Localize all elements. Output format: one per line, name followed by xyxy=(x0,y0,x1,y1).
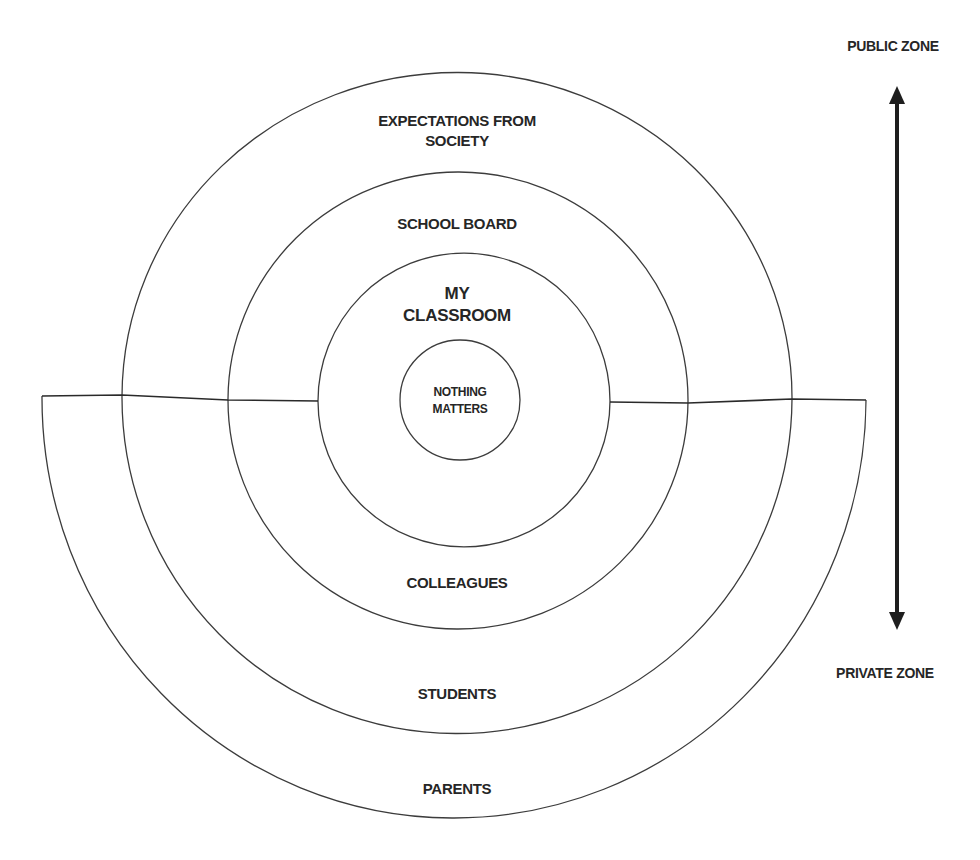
ring-students-lower xyxy=(122,396,792,734)
public-private-arrow xyxy=(889,86,905,630)
label-core-line1: NOTHING xyxy=(400,384,520,401)
label-parents: PARENTS xyxy=(357,779,557,799)
label-society: EXPECTATIONS FROM SOCIETY xyxy=(357,111,557,150)
label-society-line1: EXPECTATIONS FROM xyxy=(357,111,557,131)
ring-classroom-lower xyxy=(318,401,610,547)
arrow-up-icon xyxy=(889,86,905,104)
arrow-down-icon xyxy=(889,612,905,630)
label-society-line2: SOCIETY xyxy=(357,131,557,151)
label-classroom-line2: CLASSROOM xyxy=(377,305,537,327)
label-my-classroom: MY CLASSROOM xyxy=(377,283,537,327)
divider-left xyxy=(42,395,318,401)
label-school-board: SCHOOL BOARD xyxy=(357,214,557,234)
label-classroom-line1: MY xyxy=(377,283,537,305)
label-colleagues: COLLEAGUES xyxy=(357,573,557,593)
label-nothing-matters: NOTHING MATTERS xyxy=(400,384,520,419)
divider-right xyxy=(610,399,866,403)
label-public-zone: PUBLIC ZONE xyxy=(818,37,968,55)
ring-colleagues-lower xyxy=(228,399,688,629)
label-core-line2: MATTERS xyxy=(400,401,520,418)
label-students: STUDENTS xyxy=(357,684,557,704)
label-private-zone: PRIVATE ZONE xyxy=(810,664,960,682)
